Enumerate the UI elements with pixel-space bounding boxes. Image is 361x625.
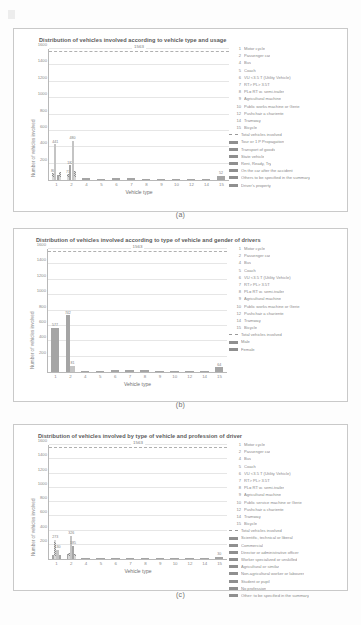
chart-a-plot-area: Number of vehicles involved2004006008001… <box>48 49 229 181</box>
legend-key: 14 <box>229 117 244 124</box>
legend-swatch <box>229 176 238 179</box>
legend-key: 1 <box>229 441 244 448</box>
bar <box>141 558 149 559</box>
y-axis-tick: 1200 <box>38 74 47 79</box>
bar: 64 <box>215 367 224 372</box>
legend-key: 12 <box>229 310 244 317</box>
legend-key: 5 <box>229 463 244 470</box>
legend-item: 5Coach <box>229 267 341 274</box>
x-axis-tick: 1 <box>54 374 56 379</box>
legend-key: 14 <box>229 317 244 324</box>
legend-item: 15Bicycle <box>229 124 341 131</box>
legend-series-label: Rent, Ready, Try <box>241 160 271 167</box>
x-axis-tick: 12 <box>187 561 192 566</box>
y-axis-tick: 1000 <box>37 288 46 293</box>
bar <box>112 178 121 180</box>
legend-key: 10 <box>229 499 244 506</box>
legend-series-item: Total vehicles involved <box>229 331 341 338</box>
legend-swatch <box>229 141 238 144</box>
legend-label: Bus <box>244 259 251 266</box>
legend-key: 15 <box>229 124 244 131</box>
gridline <box>48 325 227 326</box>
y-axis-tick: 600 <box>40 123 47 128</box>
chart-b-legend: 1Motor cycle2Passenger car4Bus5Coach6VU … <box>229 245 341 353</box>
legend-series-label: Total vehicles involved <box>241 331 282 338</box>
x-axis-tick: 8 <box>145 182 147 187</box>
x-axis-tick: 4 <box>85 182 87 187</box>
x-axis-tick: 9 <box>159 561 161 566</box>
x-axis-tick: 7 <box>129 374 131 379</box>
y-axis-tick: 600 <box>40 509 47 514</box>
y-axis-tick: 1600 <box>37 242 46 247</box>
figure-c: Distribution of vehicles involved by typ… <box>13 424 348 591</box>
legend-label: Motor cycle <box>244 245 265 252</box>
legend-swatch <box>229 184 238 187</box>
legend-label: Passenger car <box>244 252 270 259</box>
legend-series-item: Male <box>229 338 341 345</box>
legend-series-item: Agricultural or similar <box>229 563 341 570</box>
y-axis-tick: 400 <box>40 140 47 145</box>
gridline <box>48 310 227 311</box>
gridline <box>49 515 227 516</box>
chart-a-y-axis-label: Number of vehicles involved <box>31 120 36 177</box>
legend-item: 2Passenger car <box>229 448 341 455</box>
bar: 577 <box>51 328 60 372</box>
y-axis-tick: 400 <box>40 523 47 528</box>
legend-series-label: Commercial <box>241 542 263 549</box>
legend-series-item: On the car after the accident <box>229 167 341 174</box>
legend-key: 9 <box>229 95 244 102</box>
legend-series-label: Others to be specified in the summary <box>241 174 310 181</box>
legend-series-item: Commercial <box>229 542 341 549</box>
legend-swatch <box>229 537 238 540</box>
chart-b-title: Distribution of vehicles involved accord… <box>36 237 261 243</box>
bar <box>172 179 181 180</box>
y-axis-tick: 800 <box>40 107 47 112</box>
legend-key: 4 <box>229 59 244 66</box>
legend-swatch <box>229 572 238 575</box>
chart-c-y-axis-label: Number of vehicles involved <box>31 499 36 556</box>
gridline <box>49 114 229 115</box>
legend-label: Bicycle <box>244 124 257 131</box>
x-axis-tick: 2 <box>70 182 72 187</box>
total-reference-label: 1563 <box>131 440 145 445</box>
legend-key: 8 <box>229 484 244 491</box>
legend-series-label: Student or pupil <box>241 578 270 585</box>
legend-label: Coach <box>244 67 256 74</box>
bar <box>125 370 134 372</box>
x-axis-tick: 15 <box>219 182 224 187</box>
legend-item: 15Bicycle <box>229 520 341 527</box>
legend-label: Agricultural machine <box>244 295 281 302</box>
legend-series-label: Tour or 1 P Propagation <box>241 138 284 145</box>
legend-series-label: Total vehicles involved <box>241 527 282 534</box>
legend-key: 7 <box>229 281 244 288</box>
bar: 52 <box>217 176 226 180</box>
y-axis-tick: 400 <box>39 334 46 339</box>
legend-item: 9Agricultural machine <box>229 491 341 498</box>
x-axis-tick: 10 <box>173 561 178 566</box>
legend-item: 7RT> PL> 3.5T <box>229 81 341 88</box>
gridline <box>48 340 227 341</box>
legend-label: Coach <box>244 267 256 274</box>
legend-label: Public works machine or Gerie <box>244 303 300 310</box>
legend-label: Tramway <box>244 317 261 324</box>
scan-artifact <box>8 10 15 19</box>
bar <box>59 172 61 180</box>
bar-value-label: 273 <box>52 535 58 539</box>
legend-swatch <box>229 348 238 351</box>
legend-item: 5Coach <box>229 67 341 74</box>
y-axis-tick: 800 <box>40 495 47 500</box>
gridline <box>48 356 227 357</box>
gridline <box>49 458 227 459</box>
legend-item: 12Pushchair a chariente <box>229 110 341 117</box>
legend-key: 1 <box>229 45 244 52</box>
legend-swatch <box>229 565 238 568</box>
legend-key: 8 <box>229 288 244 295</box>
bar <box>111 370 120 372</box>
total-reference-line <box>48 251 227 252</box>
y-axis-tick: 1600 <box>38 438 47 443</box>
legend-series-label: Male <box>241 338 250 345</box>
legend-swatch <box>229 580 238 583</box>
figure-b-caption: (b) <box>0 401 361 408</box>
legend-label: RT> PL> 3.5T <box>244 281 270 288</box>
legend-item: 8PL= RT w. semi-trailer <box>229 288 341 295</box>
